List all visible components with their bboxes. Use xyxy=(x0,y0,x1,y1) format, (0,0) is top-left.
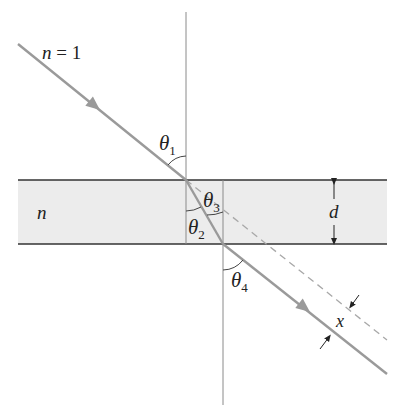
label-displacement: x xyxy=(335,311,344,331)
label-theta4: θ4 xyxy=(231,268,248,295)
label-outside-medium: n = 1 xyxy=(42,42,81,63)
label-theta1: θ1 xyxy=(159,131,176,158)
incident-ray xyxy=(18,44,186,180)
refraction-diagram: n = 1 n θ1 θ2 θ3 θ4 d x xyxy=(0,0,400,419)
label-thickness: d xyxy=(329,201,339,222)
label-slab-medium: n xyxy=(37,202,47,223)
